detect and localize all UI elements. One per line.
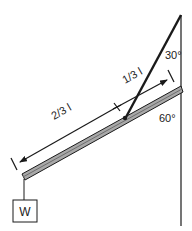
center-mark-icon <box>113 103 121 111</box>
segment-long-label: 2/3 l <box>49 101 73 122</box>
weight-label: W <box>19 205 31 219</box>
beam-diagram: W 30° 60° 1/3 l 2/3 l <box>0 0 192 231</box>
cable-attachment-point <box>123 116 127 120</box>
dimension-arrow <box>11 70 174 170</box>
angle-beam-label: 60° <box>159 112 176 124</box>
angle-top-label: 30° <box>165 49 182 61</box>
beam <box>22 86 183 180</box>
dimension-tick-left <box>11 158 17 170</box>
segment-short-label: 1/3 l <box>120 65 144 86</box>
dimension-tick-right <box>168 70 174 82</box>
